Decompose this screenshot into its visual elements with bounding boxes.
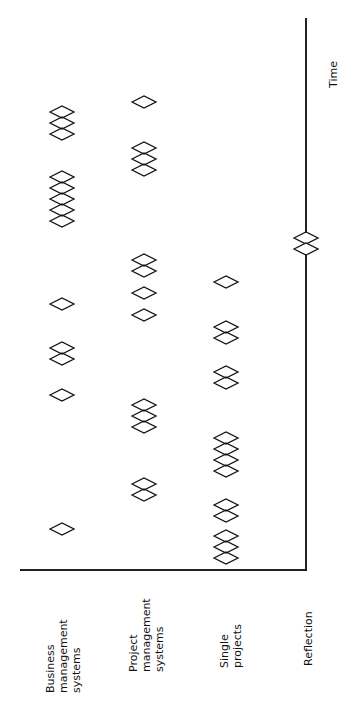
- category-axis: [20, 569, 307, 571]
- row-label-project: Project management systems: [127, 598, 166, 672]
- row-label-single: Single projects: [218, 624, 244, 668]
- time-axis-label: Time: [327, 61, 340, 88]
- row-label-business: Business management systems: [44, 619, 83, 693]
- row-label-reflection: Reflection: [302, 611, 315, 666]
- time-axis: [305, 18, 307, 570]
